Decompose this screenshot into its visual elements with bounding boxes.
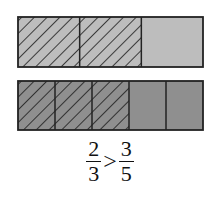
numerator: 2	[86, 138, 101, 162]
thirds-bar	[18, 17, 203, 67]
comparison-expression: 2 3 > 3 5	[74, 135, 146, 187]
greater-than-sign: >	[103, 149, 117, 173]
hatch-pattern	[55, 81, 92, 130]
unshaded-part	[166, 81, 203, 130]
hatch-pattern	[18, 81, 55, 130]
unshaded-part	[129, 81, 166, 130]
unshaded-part	[141, 17, 203, 67]
numerator: 3	[119, 138, 134, 162]
fifths-bar	[18, 81, 203, 130]
hatch-pattern	[18, 17, 80, 67]
fraction-two-thirds: 2 3	[86, 138, 101, 185]
denominator: 3	[88, 162, 99, 185]
hatch-pattern	[80, 17, 142, 67]
hatch-pattern	[92, 81, 129, 130]
fraction-three-fifths: 3 5	[119, 138, 134, 185]
denominator: 5	[121, 162, 132, 185]
